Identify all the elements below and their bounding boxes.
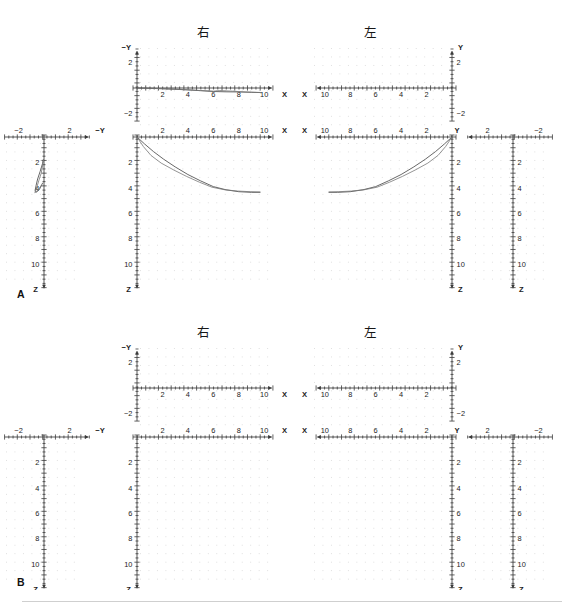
grid-dot [382,528,383,529]
grid-dot [233,562,234,563]
grid-dot [331,99,332,100]
grid-dot [348,236,349,237]
grid-dot [267,502,268,503]
grid-dot [407,168,408,169]
grid-dot [348,99,349,100]
grid-dot [65,194,66,195]
grid-dot [314,519,315,520]
grid-dot [140,356,141,357]
grid-dot [348,519,349,520]
grid-dot [407,348,408,349]
grid-dot [339,424,340,425]
grid-dot [250,177,251,178]
grid-dot [140,382,141,383]
grid-dot [157,365,158,366]
grid-dot [356,519,357,520]
grid-dot [259,99,260,100]
grid-dot [259,373,260,374]
grid-dot [433,151,434,152]
grid-dot [509,468,510,469]
grid-dot [526,143,527,144]
grid-dot [339,382,340,383]
grid-dot [57,485,58,486]
grid-dot [407,194,408,195]
grid-dot [242,253,243,254]
grid-dot [348,494,349,495]
grid-dot [74,202,75,203]
grid-dot [348,245,349,246]
grid-dot [382,553,383,554]
grid-dot [208,424,209,425]
grid-dot [348,416,349,417]
grid-dot [492,228,493,229]
grid-dot [356,48,357,49]
grid-dot [14,185,15,186]
grid-dot [331,562,332,563]
grid-dot [399,451,400,452]
grid-dot [365,477,366,478]
grid-dot [233,143,234,144]
grid-dot [225,228,226,229]
grid-dot [140,545,141,546]
grid-dot [165,562,166,563]
grid-dot [74,219,75,220]
grid-dot [322,443,323,444]
grid-dot [314,245,315,246]
axis-tick-label: 4 [35,484,39,493]
grid-dot [242,245,243,246]
grid-dot [517,143,518,144]
grid-dot [365,365,366,366]
grid-dot [543,451,544,452]
grid-dot [208,519,209,520]
grid-dot [517,451,518,452]
grid-dot [543,168,544,169]
grid-dot [339,48,340,49]
grid-dot [267,116,268,117]
grid-dot [14,245,15,246]
axis-tick-label: 8 [35,534,39,543]
grid-dot [48,528,49,529]
axis-tick-label: 10 [457,560,465,569]
grid-dot [331,579,332,580]
grid-dot [509,202,510,203]
plot-right-xz: 246810X246810Z [124,126,287,294]
grid-dot [348,348,349,349]
grid-dot [267,82,268,83]
grid-dot [424,382,425,383]
grid-dot [191,407,192,408]
curve-right-xz-2 [137,137,260,192]
grid-dot [259,177,260,178]
grid-dot [165,511,166,512]
grid-dot [216,65,217,66]
grid-dot [365,160,366,161]
grid-dot [40,219,41,220]
grid-dot [500,262,501,263]
grid-dot [233,73,234,74]
grid-dot [199,236,200,237]
grid-dot [416,570,417,571]
grid-dot [390,48,391,49]
axis-tick-label: 6 [374,390,378,399]
grid-dot [14,279,15,280]
grid-dot [267,570,268,571]
grid-dot [407,553,408,554]
grid-dot [182,48,183,49]
grid-dot [225,56,226,57]
grid-dot [233,511,234,512]
grid-dot [208,382,209,383]
grid-dot [373,151,374,152]
grid-dot [65,545,66,546]
grid-dot [23,262,24,263]
grid-dot [148,443,149,444]
grid-dot [199,536,200,537]
grid-dot [399,528,400,529]
grid-dot [57,228,58,229]
grid-dot [339,356,340,357]
grid-dot [6,262,7,263]
grid-dot [165,356,166,357]
grid-dot [250,494,251,495]
grid-dot [208,348,209,349]
grid-dot [382,570,383,571]
grid-dot [182,348,183,349]
grid-dot [382,443,383,444]
